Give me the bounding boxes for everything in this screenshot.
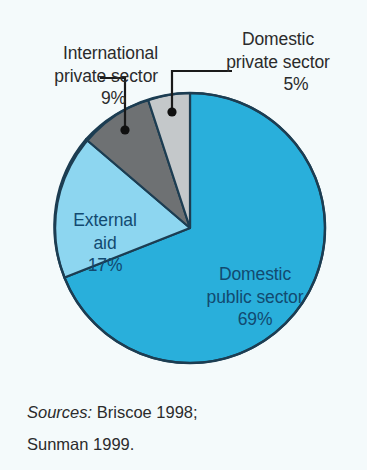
callout-domestic-private-sector: Domestic private sector 5% — [198, 6, 358, 118]
callout-domestic-private-sector-percent: 5% — [198, 73, 358, 95]
callout-international-private-sector-percent: 9% — [6, 87, 158, 109]
leader-dot-domestic-private — [167, 107, 176, 116]
sources-line-2: Sunman 1999. — [27, 428, 347, 460]
sources-keyword: Sources: — [27, 403, 92, 421]
slice-label-domestic-public-sector: Domestic public sector 69% — [189, 240, 321, 331]
slice-label-domestic-public-sector-percent: 69% — [238, 309, 273, 329]
sources-line-1: Briscoe 1998; — [92, 403, 197, 421]
slice-label-external-aid: External aid 17% — [56, 186, 154, 277]
callout-international-private-sector: International private sector 9% — [6, 20, 158, 132]
sources-note: Sources: Briscoe 1998; Sunman 1999. — [27, 396, 347, 460]
callout-domestic-private-sector-name: Domestic private sector — [226, 29, 330, 71]
callout-international-private-sector-name: International private sector — [54, 43, 158, 85]
slice-label-external-aid-percent: 17% — [88, 255, 123, 275]
pie-chart-figure: International private sector 9% Domestic… — [0, 0, 367, 470]
slice-label-domestic-public-sector-name: Domestic public sector — [207, 264, 304, 307]
slice-label-external-aid-name: External aid — [73, 210, 136, 253]
